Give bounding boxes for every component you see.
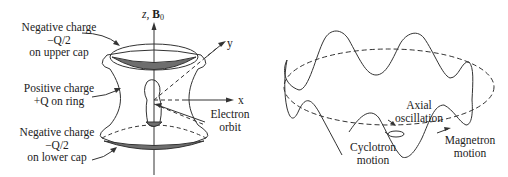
y-axis-line xyxy=(205,44,222,58)
upper-cap-label: Negative charge −Q/2 on upper cap xyxy=(14,21,104,59)
ring-label: Positive charge +Q on ring xyxy=(14,82,104,107)
electron-orbit-shading xyxy=(146,122,162,127)
y-axis-label: y xyxy=(227,37,233,49)
lower-cap-label: Negative charge −Q/2 on lower cap xyxy=(12,126,102,164)
trapped-particle-motion-diagram: Axial oscillation Cyclotron motion Magne… xyxy=(254,0,508,177)
cyclotron-loop xyxy=(388,131,404,137)
cyclotron-motion-label: Cyclotron motion xyxy=(343,141,403,166)
penning-trap-diagram: Negative charge −Q/2 on upper cap Positi… xyxy=(0,0,254,177)
axial-wave-top xyxy=(285,31,473,100)
electron-orbit-pointer xyxy=(160,106,205,122)
axial-oscillation-label: Axial oscillation xyxy=(389,99,449,124)
x-axis-label: x xyxy=(238,94,244,106)
ring-right-upper xyxy=(189,55,206,125)
magnetron-motion-label: Magnetron motion xyxy=(439,134,501,159)
magnetron-pointer-arrow-icon xyxy=(444,127,451,131)
x-axis-arrow-icon xyxy=(226,98,234,103)
z-axis-label: z, B0 xyxy=(142,8,164,24)
electron-orbit-blob xyxy=(145,80,162,127)
axial-wave-left-lower xyxy=(285,60,342,155)
electron-orbit-label: Electron orbit xyxy=(206,108,254,133)
